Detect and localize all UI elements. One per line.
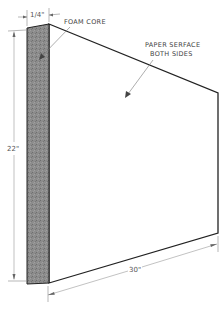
paper-surface-face xyxy=(49,24,218,283)
paper-surface-label-line2: BOTH SIDES xyxy=(150,50,193,58)
width-label: 30" xyxy=(129,266,141,274)
foam-core-label: FOAM CORE xyxy=(64,18,106,26)
thickness-label: 1/4" xyxy=(30,11,45,19)
height-label: 22" xyxy=(7,145,19,153)
foam-core-edge xyxy=(27,24,49,284)
thickness-dimension: 1/4" xyxy=(18,8,60,26)
height-dimension: 22" xyxy=(7,30,26,281)
foam-board-diagram: 1/4" 22" 30" FOAM CORE PAPER SERFACE BOT… xyxy=(0,0,224,310)
paper-surface-label-line1: PAPER SERFACE xyxy=(145,41,200,49)
